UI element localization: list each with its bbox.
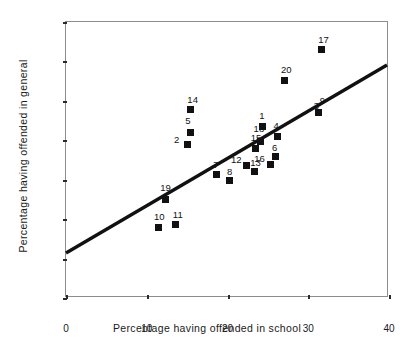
- data-point: [318, 46, 325, 53]
- data-point: [187, 129, 194, 136]
- data-point: [251, 168, 258, 175]
- y-tick: [63, 140, 67, 142]
- data-point: [252, 145, 259, 152]
- data-point: [162, 196, 169, 203]
- data-point: [257, 138, 264, 145]
- data-point: [187, 106, 194, 113]
- data-point: [267, 161, 274, 168]
- x-axis-title: Percentage having offended in school: [0, 322, 414, 334]
- y-tick: [63, 101, 67, 103]
- data-point-label: 9: [320, 96, 325, 106]
- data-point: [155, 224, 162, 231]
- data-point-label: 4: [274, 121, 279, 131]
- y-tick: [63, 219, 67, 221]
- x-tick: [389, 295, 391, 299]
- data-point-label: 11: [173, 210, 183, 220]
- data-point: [315, 109, 322, 116]
- plot-area: 1234567891011121314151617181920 01020304…: [65, 21, 388, 297]
- data-point-label: 6: [272, 143, 277, 153]
- data-point: [272, 153, 279, 160]
- data-point: [226, 177, 233, 184]
- data-point: [281, 77, 288, 84]
- data-point-label: 18: [254, 124, 265, 134]
- data-point-label: 1: [259, 111, 264, 121]
- data-point: [172, 221, 179, 228]
- x-tick: [147, 295, 149, 299]
- data-point-label: 17: [318, 35, 329, 45]
- data-point-label: 8: [227, 167, 232, 177]
- y-tick: [63, 61, 67, 63]
- trendline: [66, 22, 387, 296]
- y-axis-title: Percentage having offended in general: [17, 11, 29, 301]
- data-point: [274, 133, 281, 140]
- data-point-label: 2: [174, 135, 179, 145]
- data-point-label: 10: [154, 212, 165, 222]
- y-tick: [63, 22, 67, 24]
- x-tick: [228, 295, 230, 299]
- data-point: [184, 141, 191, 148]
- data-point-label: 19: [160, 183, 171, 193]
- y-tick: [63, 180, 67, 182]
- data-point-label: 12: [231, 155, 242, 165]
- data-point-label: 20: [281, 65, 292, 75]
- scatter-chart: 1234567891011121314151617181920 01020304…: [0, 0, 414, 348]
- x-tick: [66, 295, 68, 299]
- data-point-label: 16: [254, 154, 265, 164]
- data-point-label: 5: [185, 116, 190, 126]
- y-tick: [63, 259, 67, 261]
- data-point-label: 14: [187, 95, 198, 105]
- data-point: [213, 171, 220, 178]
- x-tick: [308, 295, 310, 299]
- data-point-label: 7: [213, 160, 218, 170]
